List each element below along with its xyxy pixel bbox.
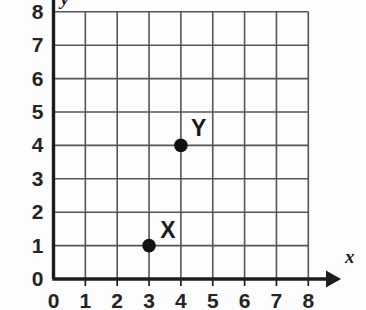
axis-lines-group (52, 0, 341, 288)
x-tick-label-5: 5 (200, 290, 226, 310)
x-tick-label-2: 2 (104, 290, 130, 310)
data-point-x (142, 239, 156, 253)
x-tick-label-0: 0 (41, 290, 67, 310)
x-tick-label-1: 1 (72, 290, 98, 310)
y-tick-label-4: 4 (18, 134, 44, 155)
y-tick-label-5: 5 (18, 101, 44, 122)
coordinate-plane-canvas (0, 0, 366, 310)
y-tick-label-8: 8 (18, 1, 44, 22)
x-tick-label-6: 6 (232, 290, 258, 310)
y-tick-label-0: 0 (18, 268, 44, 289)
coordinate-grid-figure: 012345678 012345678 XY x y (0, 0, 366, 310)
x-tick-label-4: 4 (168, 290, 194, 310)
point-label-y: Y (191, 117, 206, 140)
y-tick-label-2: 2 (18, 201, 44, 222)
y-tick-label-3: 3 (18, 168, 44, 189)
y-tick-label-7: 7 (18, 34, 44, 55)
x-tick-label-7: 7 (263, 290, 289, 310)
y-axis-label: y (61, 0, 69, 8)
x-axis-arrowhead (326, 271, 341, 288)
point-label-x: X (160, 219, 175, 242)
x-tick-label-8: 8 (295, 290, 321, 310)
y-tick-label-1: 1 (18, 235, 44, 256)
y-tick-label-6: 6 (18, 68, 44, 89)
x-tick-label-3: 3 (136, 290, 162, 310)
x-axis-label: x (345, 247, 355, 266)
data-point-y (174, 139, 188, 153)
